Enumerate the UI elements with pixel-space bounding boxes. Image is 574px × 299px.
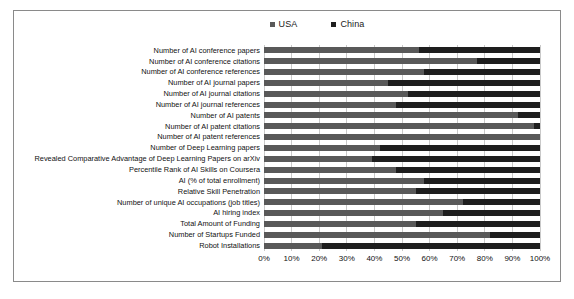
bar-row[interactable] xyxy=(264,208,540,219)
bar-row[interactable] xyxy=(264,240,540,251)
category-label: Number of AI conference citations xyxy=(14,56,264,67)
x-tick-label: 70% xyxy=(449,255,465,263)
bar-row[interactable] xyxy=(264,88,540,99)
bar-segment-usa xyxy=(264,178,424,184)
bar-segment-china xyxy=(396,167,540,173)
bar-segment-usa xyxy=(264,156,372,162)
x-tick-label: 80% xyxy=(477,255,493,263)
plot-area xyxy=(264,45,540,251)
bar-segment-china xyxy=(396,102,540,108)
bar-segment-usa xyxy=(264,199,463,205)
category-label: Number of AI conference references xyxy=(14,67,264,78)
bar-track xyxy=(264,47,540,53)
bar-segment-usa xyxy=(264,243,322,249)
category-label: Number of AI journal citations xyxy=(14,88,264,99)
bar-segment-china xyxy=(490,232,540,238)
bar-segment-usa xyxy=(264,91,408,97)
bar-segment-china xyxy=(443,210,540,216)
bar-track xyxy=(264,80,540,86)
bar-segment-usa xyxy=(264,210,443,216)
bar-segment-usa xyxy=(264,232,490,238)
bar-segment-china xyxy=(534,123,540,129)
legend-entry-usa: USA xyxy=(270,20,298,29)
x-tick-label: 10% xyxy=(284,255,300,263)
legend-label-usa: USA xyxy=(279,20,298,29)
category-label: Number of unique AI occupations (job tit… xyxy=(14,197,264,208)
x-tick-label: 100% xyxy=(530,255,550,263)
category-label: Total Amount of Funding xyxy=(14,219,264,230)
x-tick-label: 60% xyxy=(422,255,438,263)
bar-row[interactable] xyxy=(264,197,540,208)
category-label: Number of Startups Funded xyxy=(14,229,264,240)
bar-row[interactable] xyxy=(264,45,540,56)
bar-row[interactable] xyxy=(264,99,540,110)
bar-track xyxy=(264,243,540,249)
bar-segment-usa xyxy=(264,58,477,64)
bar-segment-china xyxy=(322,243,540,249)
bar-track xyxy=(264,188,540,194)
bar-segment-usa xyxy=(264,112,518,118)
bar-row[interactable] xyxy=(264,219,540,230)
bar-segment-china xyxy=(419,47,540,53)
bar-segment-usa xyxy=(264,134,540,140)
bar-row[interactable] xyxy=(264,67,540,78)
bar-row[interactable] xyxy=(264,56,540,67)
bar-track xyxy=(264,91,540,97)
category-label: Number of AI patent references xyxy=(14,132,264,143)
bar-track xyxy=(264,167,540,173)
bar-row[interactable] xyxy=(264,132,540,143)
bar-track xyxy=(264,232,540,238)
bar-row[interactable] xyxy=(264,229,540,240)
bar-row[interactable] xyxy=(264,143,540,154)
category-label: Number of Deep Learning papers xyxy=(14,143,264,154)
bar-row[interactable] xyxy=(264,186,540,197)
plot-wrapper: Number of AI conference papersNumber of … xyxy=(14,45,560,269)
bar-segment-usa xyxy=(264,102,396,108)
bar-row[interactable] xyxy=(264,78,540,89)
bar-segment-usa xyxy=(264,80,388,86)
bar-segment-usa xyxy=(264,221,416,227)
legend-swatch-china-icon xyxy=(331,22,336,27)
bar-row[interactable] xyxy=(264,175,540,186)
bar-track xyxy=(264,134,540,140)
bar-segment-china xyxy=(416,188,540,194)
bar-track xyxy=(264,178,540,184)
x-tick-label: 0% xyxy=(258,255,270,263)
bar-row[interactable] xyxy=(264,164,540,175)
bar-track xyxy=(264,145,540,151)
category-label: Robot Installations xyxy=(14,240,264,251)
legend-swatch-usa-icon xyxy=(270,22,275,27)
x-tick-label: 20% xyxy=(311,255,327,263)
category-label: AI (% of total enrollment) xyxy=(14,175,264,186)
bar-track xyxy=(264,102,540,108)
chart-legend: USA China xyxy=(14,20,560,29)
legend-label-china: China xyxy=(340,20,364,29)
x-tick-label: 50% xyxy=(394,255,410,263)
bar-segment-china xyxy=(380,145,540,151)
bar-series-container xyxy=(264,45,540,251)
bar-track xyxy=(264,221,540,227)
bar-track xyxy=(264,210,540,216)
category-axis: Number of AI conference papersNumber of … xyxy=(14,45,264,251)
bar-segment-usa xyxy=(264,123,534,129)
bar-track xyxy=(264,69,540,75)
bar-row[interactable] xyxy=(264,121,540,132)
category-label: Number of AI conference papers xyxy=(14,45,264,56)
category-label: Revealed Comparative Advantage of Deep L… xyxy=(14,153,264,164)
bar-segment-china xyxy=(424,69,540,75)
bar-segment-china xyxy=(388,80,540,86)
bar-segment-china xyxy=(424,178,540,184)
bar-row[interactable] xyxy=(264,110,540,121)
legend-entry-china: China xyxy=(331,20,364,29)
bar-track xyxy=(264,112,540,118)
bar-track xyxy=(264,123,540,129)
category-label: AI hiring index xyxy=(14,208,264,219)
bar-segment-usa xyxy=(264,167,396,173)
bar-segment-usa xyxy=(264,69,424,75)
chart-frame: USA China Number of AI conference papers… xyxy=(13,10,561,282)
bar-row[interactable] xyxy=(264,153,540,164)
category-label: Number of AI patents xyxy=(14,110,264,121)
x-tick-label: 90% xyxy=(504,255,520,263)
bar-segment-china xyxy=(463,199,540,205)
x-tick-label: 30% xyxy=(339,255,355,263)
